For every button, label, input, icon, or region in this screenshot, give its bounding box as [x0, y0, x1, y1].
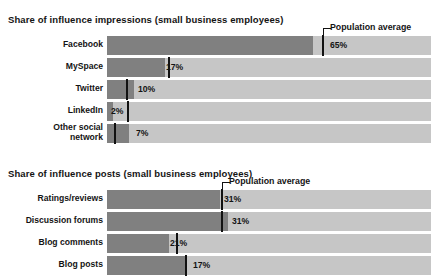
bar-fill [107, 212, 228, 231]
population-average-tick [221, 189, 223, 210]
bar-track [107, 212, 431, 231]
chart-title-impressions: Share of influence impressions (small bu… [8, 14, 284, 25]
bar-fill [107, 234, 169, 253]
bar-value: 2% [111, 106, 123, 116]
population-average-label-top: Population average [330, 22, 411, 32]
bar-track [107, 80, 431, 99]
table-row: LinkedIn 2% [0, 102, 446, 121]
bar-label: Discussion forums [0, 216, 103, 226]
bar-value: 31% [232, 216, 249, 226]
bar-fill [107, 256, 185, 275]
bar-value: 10% [138, 84, 155, 94]
bar-value: 31% [224, 194, 241, 204]
bar-track [107, 234, 431, 253]
bar-value: 21% [170, 238, 187, 248]
bar-value: 7% [136, 128, 148, 138]
chart-title-posts: Share of influence posts (small business… [8, 168, 252, 179]
bar-fill [107, 80, 134, 99]
bar-track [107, 190, 431, 209]
bar-track [107, 124, 431, 143]
population-average-tick [126, 79, 128, 100]
population-average-leader-bottom [222, 182, 230, 189]
bar-label: MySpace [0, 62, 103, 72]
bar-label: Ratings/reviews [0, 194, 103, 204]
table-row: Ratings/reviews 31% [0, 190, 446, 209]
population-average-label-bottom: Population average [229, 176, 310, 186]
population-average-tick [185, 255, 187, 276]
table-row: Blog comments 21% [0, 234, 446, 253]
bar-track [107, 102, 431, 121]
bar-label: Other social network [0, 123, 103, 142]
bar-track [107, 58, 431, 77]
table-row: Twitter 10% [0, 80, 446, 99]
bar-label: Blog posts [0, 260, 103, 270]
bar-value: 65% [330, 40, 347, 50]
table-row: Other social network 7% [0, 124, 446, 143]
bar-label: Twitter [0, 84, 103, 94]
bar-track [107, 36, 431, 55]
bar-label: LinkedIn [0, 106, 103, 116]
bar-value: 17% [166, 62, 183, 72]
table-row: Blog posts 17% [0, 256, 446, 275]
population-average-leader-top [323, 28, 331, 35]
bar-fill [107, 58, 165, 77]
population-average-tick [114, 123, 116, 144]
bar-fill [107, 36, 313, 55]
bar-label: Blog comments [0, 238, 103, 248]
population-average-tick [221, 211, 223, 232]
bar-fill [107, 190, 220, 209]
bar-fill [107, 124, 129, 143]
bar-track [107, 256, 431, 275]
table-row: MySpace 17% [0, 58, 446, 77]
bar-value: 17% [193, 260, 210, 270]
table-row: Discussion forums 31% [0, 212, 446, 231]
population-average-tick [127, 101, 129, 122]
population-average-tick [322, 35, 324, 56]
table-row: Facebook 65% [0, 36, 446, 55]
bar-label: Facebook [0, 40, 103, 50]
